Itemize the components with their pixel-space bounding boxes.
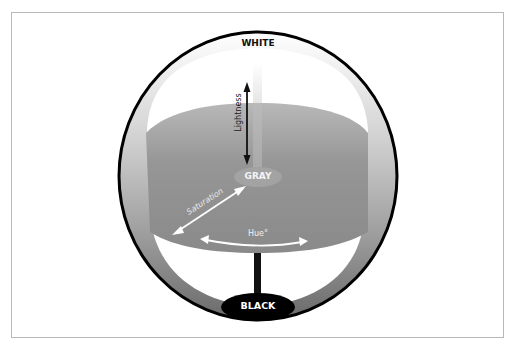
lightness-label: Lightness xyxy=(234,88,243,138)
gray-center-label: GRAY xyxy=(234,171,282,181)
hue-label: Hue° xyxy=(240,229,276,238)
lightness-column-inner xyxy=(253,103,262,167)
black-pole-label: BLACK xyxy=(226,300,290,311)
black-axis-column xyxy=(254,253,261,300)
white-pole-label: WHITE xyxy=(230,38,286,48)
